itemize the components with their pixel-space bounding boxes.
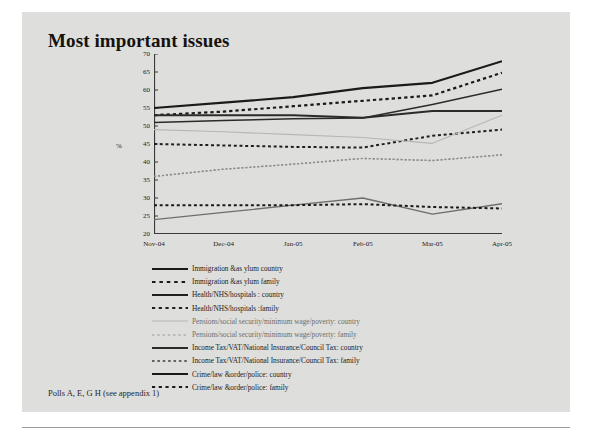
legend-item-label: Pensions/social security/minimum wage/po… xyxy=(192,330,357,339)
legend-item[interactable]: Immigration &as ylum country xyxy=(150,262,550,275)
y-axis-tick-label: 55 xyxy=(130,104,150,112)
chart-series-line xyxy=(154,155,502,177)
legend-item[interactable]: Immigration &as ylum family xyxy=(150,275,550,288)
chart-series-line xyxy=(154,198,502,220)
y-axis-unit-label: % xyxy=(116,142,122,150)
legend-line-swatch-icon xyxy=(150,302,190,314)
x-axis-tick-label: Mar-05 xyxy=(422,240,443,248)
legend-item[interactable]: Health/NHS/hospitals : country xyxy=(150,288,550,301)
y-axis-tick-label: 35 xyxy=(130,176,150,184)
x-axis-tick-label: Nov-04 xyxy=(143,240,164,248)
x-axis-tick-label: Apr-05 xyxy=(492,240,512,248)
y-axis-tick-label: 60 xyxy=(130,86,150,94)
legend-item[interactable]: Crime/law &order/police: family xyxy=(150,381,550,394)
legend-line-swatch-icon xyxy=(150,329,190,341)
x-axis-tick-label: Jan-05 xyxy=(284,240,303,248)
page-divider xyxy=(22,427,570,428)
legend-item-label: Income Tax/VAT/National Insurance/Counci… xyxy=(192,356,360,365)
legend-line-swatch-icon xyxy=(150,355,190,367)
legend-item[interactable]: Income Tax/VAT/National Insurance/Counci… xyxy=(150,354,550,367)
y-axis-tick-label: 20 xyxy=(130,230,150,238)
chart-series-line xyxy=(154,204,502,208)
chart-series-line xyxy=(154,115,502,143)
slide-page: Most important issues % 2025303540455055… xyxy=(0,0,593,440)
y-axis-tick-label: 45 xyxy=(130,140,150,148)
y-axis-tick-label: 30 xyxy=(130,194,150,202)
y-axis-tick-label: 40 xyxy=(130,158,150,166)
legend-line-swatch-icon xyxy=(150,342,190,354)
y-axis-tick-label: 50 xyxy=(130,122,150,130)
line-chart: % 2025303540455055606570 Nov-04Dec-04Jan… xyxy=(104,54,524,269)
source-note: Polls A, E, G H (see appendix 1) xyxy=(48,388,159,398)
chart-plot-area xyxy=(154,54,502,234)
legend-item[interactable]: Pensions/social security/minimum wage/po… xyxy=(150,315,550,328)
chart-series-line xyxy=(154,155,502,177)
legend-item-label: Crime/law &order/police: family xyxy=(192,383,288,392)
chart-series-line xyxy=(154,73,502,115)
y-axis-ticks: 2025303540455055606570 xyxy=(128,54,150,234)
legend-line-swatch-icon xyxy=(150,276,190,288)
chart-legend: Immigration &as ylum countryImmigration … xyxy=(150,262,550,394)
legend-line-swatch-icon xyxy=(150,368,190,380)
page-title: Most important issues xyxy=(48,30,230,52)
legend-item-label: Crime/law &order/police: country xyxy=(192,370,292,379)
y-axis-tick-label: 70 xyxy=(130,50,150,58)
legend-item-label: Income Tax/VAT/National Insurance/Counci… xyxy=(192,343,363,352)
presentation-slide: Most important issues % 2025303540455055… xyxy=(22,12,570,412)
legend-item[interactable]: Health/NHS/hospitals :family xyxy=(150,302,550,315)
legend-item[interactable]: Pensions/social security/minimum wage/po… xyxy=(150,328,550,341)
legend-line-swatch-icon xyxy=(150,289,190,301)
legend-item-label: Immigration &as ylum country xyxy=(192,264,283,273)
legend-item-label: Health/NHS/hospitals :family xyxy=(192,304,279,313)
y-axis-tick-label: 25 xyxy=(130,212,150,220)
x-axis-tick-label: Feb-05 xyxy=(353,240,373,248)
y-axis-tick-label: 65 xyxy=(130,68,150,76)
legend-item-label: Immigration &as ylum family xyxy=(192,277,280,286)
legend-item[interactable]: Income Tax/VAT/National Insurance/Counci… xyxy=(150,341,550,354)
legend-item[interactable]: Crime/law &order/police: country xyxy=(150,368,550,381)
chart-series-svg xyxy=(154,54,502,234)
legend-line-swatch-icon xyxy=(150,263,190,275)
chart-series-line xyxy=(154,130,502,148)
x-axis-tick-label: Dec-04 xyxy=(213,240,234,248)
legend-item-label: Health/NHS/hospitals : country xyxy=(192,290,284,299)
legend-item-label: Pensions/social security/minimum wage/po… xyxy=(192,317,360,326)
legend-line-swatch-icon xyxy=(150,315,190,327)
